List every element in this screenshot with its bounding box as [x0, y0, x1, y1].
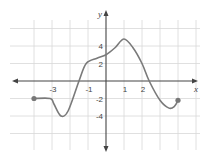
x-tick-label: -3	[49, 85, 57, 94]
y-axis-arrow-down-icon	[104, 146, 109, 152]
x-axis-arrow-left-icon	[12, 79, 18, 84]
y-axis-label: y	[97, 9, 102, 19]
y-axis-arrow-up-icon	[104, 10, 109, 16]
y-tick-label: 2	[99, 60, 104, 69]
y-tick-label: 4	[99, 42, 104, 51]
x-tick-label: 2	[141, 85, 146, 94]
y-tick-label: -2	[96, 95, 104, 104]
endpoint-dot	[175, 98, 180, 103]
endpoint-dot	[31, 96, 36, 101]
x-axis-arrow-right-icon	[192, 79, 198, 84]
y-tick-label: -4	[96, 112, 104, 121]
x-axis-label: x	[193, 84, 198, 94]
axes	[12, 10, 198, 152]
grid-lines	[10, 20, 200, 150]
function-graph: -3-11242-2-4 y x	[0, 0, 208, 158]
x-tick-label: -1	[85, 85, 93, 94]
x-tick-label: 1	[123, 85, 128, 94]
